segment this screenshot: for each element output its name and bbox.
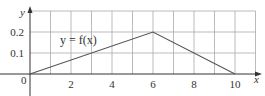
tick-labels: 2468100.10.2	[10, 26, 241, 90]
y-axis-label: y	[19, 6, 25, 18]
axes	[0, 6, 262, 96]
curve-label: y = f(x)	[60, 33, 97, 47]
x-tick-label: 8	[191, 78, 197, 90]
y-tick-label: 0.1	[10, 47, 24, 59]
chart: 2468100.10.2 y = f(x) x y 0	[0, 0, 265, 96]
x-tick-label: 2	[68, 78, 74, 90]
x-tick-label: 10	[230, 78, 242, 90]
y-axis-arrow-icon	[28, 6, 33, 13]
origin-label: 0	[21, 74, 27, 86]
x-tick-label: 6	[150, 78, 156, 90]
x-axis-label: x	[253, 73, 259, 85]
x-tick-label: 4	[109, 78, 115, 90]
y-tick-label: 0.2	[10, 26, 24, 38]
